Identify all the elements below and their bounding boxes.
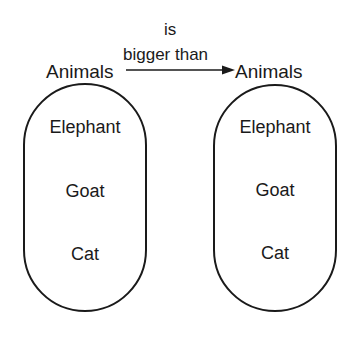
codomain-member-elephant: Elephant (215, 117, 335, 138)
codomain-member-cat: Cat (215, 243, 335, 264)
codomain-member-goat: Goat (215, 180, 335, 201)
domain-member-elephant: Elephant (25, 117, 145, 138)
arrowhead-icon (222, 66, 235, 75)
domain-member-cat: Cat (25, 244, 145, 265)
domain-member-goat: Goat (25, 181, 145, 202)
codomain-set-oval: Elephant Goat Cat (213, 84, 337, 312)
domain-set-oval: Elephant Goat Cat (23, 83, 147, 312)
